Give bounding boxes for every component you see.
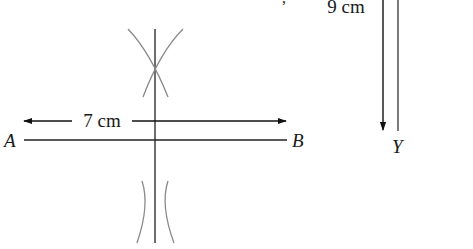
- length-label-ab: 7 cm: [83, 110, 121, 131]
- arc-from-b-top: [143, 29, 183, 97]
- stray-comma-mark: ,: [282, 0, 286, 6]
- arc-from-a-top: [128, 29, 168, 97]
- point-label-b: B: [292, 130, 304, 151]
- point-label-a: A: [2, 130, 16, 151]
- arc-from-b-bottom: [165, 181, 174, 243]
- construction-diagram: 7 cm A B 9 cm Y ,: [0, 0, 473, 249]
- arc-from-a-bottom: [137, 181, 145, 243]
- length-label-xy: 9 cm: [327, 0, 365, 17]
- point-label-y: Y: [392, 136, 405, 157]
